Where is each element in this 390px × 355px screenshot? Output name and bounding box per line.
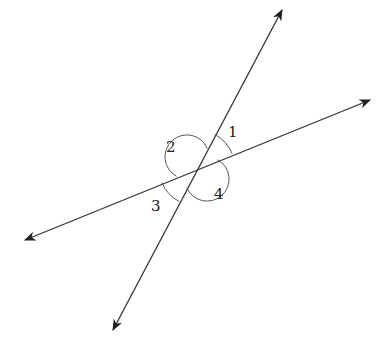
angle-4-label: 4 xyxy=(214,185,224,203)
angle-3-arc xyxy=(162,182,180,201)
intersecting-lines-diagram: 1 2 3 4 xyxy=(0,0,390,355)
angle-2-label: 2 xyxy=(166,138,176,156)
angle-3-label: 3 xyxy=(151,197,161,215)
angle-1-label: 1 xyxy=(228,123,238,141)
line-b xyxy=(113,10,282,330)
